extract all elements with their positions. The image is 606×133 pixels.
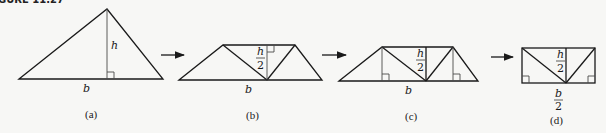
caption-b: (b) xyxy=(246,109,259,122)
height-label-num-d: h xyxy=(557,48,564,61)
base-label-den-d: 2 xyxy=(555,100,562,113)
figure-title: GURE 11.27 xyxy=(0,0,64,5)
trapezoid-c xyxy=(339,47,478,81)
right-angle-mark-left-d xyxy=(522,76,529,83)
base-label-b: b xyxy=(245,83,252,96)
panel-c: h 2 b (c) xyxy=(339,47,478,123)
height-label-a: h xyxy=(111,39,118,52)
triangle-area-diagram: GURE 11.27 h b (a) h 2 b (b) h 2 xyxy=(0,0,606,133)
base-label-num-d: b xyxy=(555,87,562,100)
caption-c: (c) xyxy=(405,110,418,123)
trapezoid-b xyxy=(179,45,322,80)
right-angle-mark-left-c xyxy=(382,74,389,81)
height-label-den-b: 2 xyxy=(257,59,264,72)
panel-d: h 2 b 2 (d) xyxy=(522,48,595,127)
caption-a: (a) xyxy=(85,108,98,121)
triangle-a xyxy=(19,9,163,79)
height-label-num-b: h xyxy=(257,45,264,58)
right-angle-mark-a xyxy=(107,72,114,79)
height-label-den-d: 2 xyxy=(557,62,564,75)
height-label-den-c: 2 xyxy=(417,61,424,74)
base-label-c: b xyxy=(405,84,412,97)
right-angle-mark-right-c xyxy=(453,74,460,81)
height-label-num-c: h xyxy=(417,47,424,60)
panel-a: h b (a) xyxy=(19,9,163,121)
right-angle-mark-b xyxy=(267,45,274,52)
fold-line-right-c xyxy=(426,47,453,81)
diagonal-right-d xyxy=(566,48,595,83)
caption-d: (d) xyxy=(550,114,563,127)
base-label-a: b xyxy=(83,82,90,95)
panel-b: h 2 b (b) xyxy=(179,45,322,122)
right-angle-mark-right-d xyxy=(588,76,595,83)
fold-line-right-b xyxy=(267,45,295,80)
